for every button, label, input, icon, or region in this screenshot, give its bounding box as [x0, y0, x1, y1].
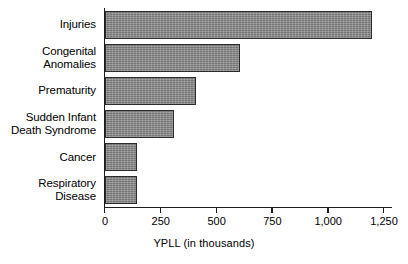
bar-slot	[105, 8, 391, 41]
x-axis-title: YPLL (in thousands)	[0, 237, 408, 249]
x-axis-tick-label: 750	[263, 215, 281, 227]
category-label-sudden-infant-death-syndrome: Sudden Infant Death Syndrome	[0, 108, 101, 141]
x-axis-tick-label: 500	[207, 215, 225, 227]
x-axis-tick-label: 1,000	[314, 215, 342, 227]
bar-injuries	[105, 11, 372, 39]
x-axis-tick	[216, 208, 217, 213]
bar-slot	[105, 174, 391, 207]
x-axis-tick-label: 1,250	[370, 215, 398, 227]
x-axis-tick-label: 0	[102, 215, 108, 227]
x-axis-tick-label: 250	[152, 215, 170, 227]
bar-slot	[105, 74, 391, 107]
category-axis-labels: Injuries Congenital Anomalies Prematurit…	[0, 8, 101, 207]
x-axis-tick	[383, 208, 384, 213]
bar-series	[105, 8, 391, 207]
plot-area	[105, 8, 391, 207]
x-axis-tick	[104, 208, 105, 213]
category-label-injuries: Injuries	[0, 8, 101, 41]
category-label-respiratory-disease: Respiratory Disease	[0, 174, 101, 207]
bar-chart: Injuries Congenital Anomalies Prematurit…	[0, 0, 408, 264]
x-axis-tick	[271, 208, 272, 213]
bar-respiratory-disease	[105, 176, 137, 204]
category-label-prematurity: Prematurity	[0, 74, 101, 107]
bar-slot	[105, 108, 391, 141]
y-axis-line	[104, 8, 105, 208]
bar-prematurity	[105, 77, 196, 105]
bar-sudden-infant-death-syndrome	[105, 110, 174, 138]
x-axis-tick	[327, 208, 328, 213]
category-label-cancer: Cancer	[0, 141, 101, 174]
x-axis-tick	[160, 208, 161, 213]
category-label-congenital-anomalies: Congenital Anomalies	[0, 41, 101, 74]
bar-slot	[105, 41, 391, 74]
bar-slot	[105, 141, 391, 174]
x-axis-line	[104, 207, 392, 208]
bar-cancer	[105, 143, 137, 171]
bar-congenital-anomalies	[105, 44, 240, 72]
